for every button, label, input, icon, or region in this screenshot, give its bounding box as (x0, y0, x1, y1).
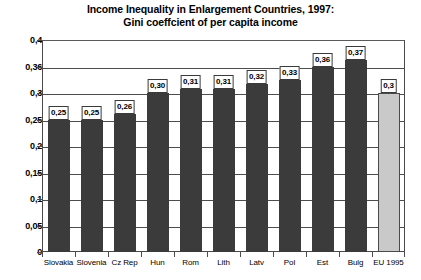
bar (81, 120, 103, 253)
x-category-label: Cz Rep (111, 258, 137, 267)
bar-value-label: 0,31 (213, 75, 234, 89)
x-category-label: Bulg (348, 258, 364, 267)
bar-group: 0,31 (207, 40, 240, 252)
bar (48, 120, 70, 253)
bar-value-label: 0,33 (279, 66, 300, 80)
bar-group: 0,26 (108, 40, 141, 252)
bar (180, 89, 202, 252)
x-tick-mark (240, 252, 241, 257)
bar (312, 67, 334, 253)
x-category-label: Rom (182, 258, 199, 267)
bar-value-label: 0,36 (312, 53, 333, 67)
bar-value-label: 0,25 (48, 106, 69, 120)
x-tick-mark (42, 252, 43, 257)
x-category-label: Est (317, 258, 328, 267)
x-tick-mark (141, 252, 142, 257)
bar-value-label: 0,31 (180, 75, 201, 89)
bar-group: 0,25 (42, 40, 75, 252)
x-category-label: Slovakia (44, 258, 73, 267)
bars-layer: 0,250,250,260,300,310,310,320,330,360,37… (42, 40, 405, 252)
x-tick-mark (339, 252, 340, 257)
bar-group: 0,36 (306, 40, 339, 252)
bar-chart: Income Inequality in Enlargement Countri… (0, 0, 421, 280)
bar-value-label: 0,26 (114, 100, 135, 114)
x-tick-mark (108, 252, 109, 257)
bar (345, 60, 367, 252)
x-tick-mark (372, 252, 373, 257)
bar-group: 0,25 (75, 40, 108, 252)
bar-value-label: 0,3 (380, 79, 397, 93)
x-category-label: Hun (150, 258, 164, 267)
x-tick-mark (207, 252, 208, 257)
x-category-label: Latv (249, 258, 264, 267)
bar-group: 0,3 (372, 40, 405, 252)
bar (246, 84, 268, 252)
x-tick-mark (306, 252, 307, 257)
x-axis: SlovakiaSloveniaCz RepHunRomLithLatvPolE… (42, 252, 405, 280)
x-tick-mark (75, 252, 76, 257)
bar-group: 0,30 (141, 40, 174, 252)
bar-group: 0,31 (174, 40, 207, 252)
x-tick-mark (174, 252, 175, 257)
x-category-label: Lith (217, 258, 230, 267)
chart-title: Income Inequality in Enlargement Countri… (0, 3, 421, 29)
bar-value-label: 0,37 (345, 46, 366, 60)
bar (378, 93, 400, 252)
bar-value-label: 0,25 (81, 106, 102, 120)
bar (114, 114, 136, 252)
bar-group: 0,33 (273, 40, 306, 252)
x-tick-mark (273, 252, 274, 257)
bar-value-label: 0,30 (147, 79, 168, 93)
chart-title-line1: Income Inequality in Enlargement Countri… (87, 3, 334, 15)
bar (213, 89, 235, 252)
bar-group: 0,37 (339, 40, 372, 252)
bar-group: 0,32 (240, 40, 273, 252)
bar (147, 93, 169, 252)
x-category-label: EU 1995 (373, 258, 403, 267)
x-category-label: Slovenia (77, 258, 107, 267)
y-axis: 00,050,10,150,20,250,30,360,4 (0, 40, 42, 252)
bar-value-label: 0,32 (246, 70, 267, 84)
bar (279, 80, 301, 252)
chart-title-line2: Gini coeffcient of per capita income (0, 16, 421, 29)
x-tick-mark (404, 252, 405, 257)
x-category-label: Pol (284, 258, 295, 267)
